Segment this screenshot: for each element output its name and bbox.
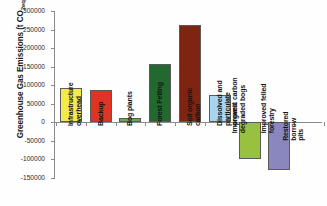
y-axis-tick-label: 200000 [0,44,45,51]
y-axis-tick [51,178,56,179]
x-axis-tick [116,122,117,126]
x-axis-tick [56,122,57,126]
y-axis-tick [51,67,56,68]
y-axis-tick [51,141,56,142]
y-axis-tick [51,85,56,86]
y-axis-tick-label: 300000 [0,7,45,14]
y-axis-tick-label: -50000 [0,137,45,144]
y-axis-tick-label: 100000 [0,81,45,88]
y-axis-tick-label: 250000 [0,26,45,33]
y-axis-tick [51,159,56,160]
x-axis-category-label: Restored borrow pits [282,112,305,141]
x-axis-tick [86,122,87,126]
x-axis-tick [145,122,146,126]
y-axis-tick [51,122,56,123]
y-axis-tick-label: 0 [0,118,45,125]
y-axis-tick [51,11,56,12]
y-axis-tick-label: -100000 [0,155,45,162]
x-axis-category-label: Improved felled forestry [260,84,275,134]
x-axis-category-label: Backup [97,102,105,126]
x-axis-category-label: Forest Felling [156,83,164,127]
y-axis-tick-label: -150000 [0,174,45,181]
bar-chart: Greenhouse Gas Emissions (t CO2eq) 30000… [0,0,327,206]
y-axis-tick [51,30,56,31]
x-axis-tick [205,122,206,126]
x-axis-tick [324,122,325,126]
x-axis-category-label: Infrastructure overhead [67,83,82,126]
y-axis-tick-label: 150000 [0,63,45,70]
x-axis-category-label: Improved degraded bogs [230,85,245,133]
y-axis-tick [51,104,56,105]
y-axis-tick [51,48,56,49]
y-axis-tick-label: 50000 [0,100,45,107]
x-axis-category-label: Soil organic carbon [186,88,201,126]
x-axis-tick [175,122,176,126]
y-axis-line [54,11,55,178]
x-axis-category-label: Bog plants [126,92,134,127]
